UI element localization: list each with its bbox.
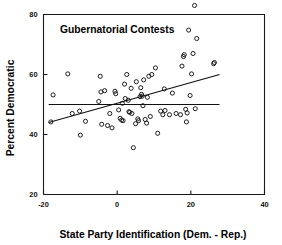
- x-tick-label: 20: [187, 200, 195, 209]
- data-point: [178, 113, 182, 117]
- y-axis-ticks: 20406080: [29, 10, 47, 199]
- data-point: [131, 146, 135, 150]
- x-tick-label: 0: [115, 200, 119, 209]
- data-point: [195, 36, 199, 40]
- data-point: [170, 91, 174, 95]
- data-point: [122, 82, 126, 86]
- x-axis-label: State Party Identification (Dem. - Rep.): [59, 229, 246, 240]
- data-point: [139, 86, 143, 90]
- data-point: [148, 114, 152, 118]
- data-point: [125, 72, 129, 76]
- x-axis-ticks: -2002040: [38, 191, 268, 209]
- data-point: [83, 119, 87, 123]
- data-point: [191, 51, 195, 55]
- data-point: [98, 74, 102, 78]
- data-point: [187, 28, 191, 32]
- data-point: [153, 66, 157, 70]
- data-point: [161, 113, 165, 117]
- y-tick-label: 20: [29, 190, 37, 199]
- data-point: [142, 78, 146, 82]
- data-point: [134, 80, 138, 84]
- y-axis-label: Percent Democratic: [5, 59, 16, 156]
- data-point: [110, 126, 114, 130]
- data-point: [185, 111, 189, 115]
- data-point: [145, 121, 149, 125]
- x-tick-label: -20: [38, 200, 49, 209]
- y-tick-label: 80: [29, 10, 37, 19]
- data-point: [117, 108, 121, 112]
- data-point: [156, 131, 160, 135]
- data-point: [108, 111, 112, 115]
- x-tick-label: 40: [260, 200, 268, 209]
- data-point: [192, 3, 196, 7]
- data-point: [51, 93, 55, 97]
- data-point: [174, 111, 178, 115]
- data-point: [66, 72, 70, 76]
- data-point: [184, 120, 188, 124]
- data-point: [129, 86, 133, 90]
- data-point: [193, 107, 197, 111]
- data-point: [188, 93, 192, 97]
- data-point: [103, 89, 107, 93]
- y-tick-label: 60: [29, 70, 37, 79]
- data-point: [78, 109, 82, 113]
- data-point: [145, 95, 149, 99]
- data-point: [100, 122, 104, 126]
- plot-title: Gubernatorial Contests: [60, 24, 175, 35]
- data-point: [167, 113, 171, 117]
- chart-canvas: 20406080 -2002040 Gubernatorial Contests…: [0, 0, 282, 245]
- data-point: [78, 133, 82, 137]
- y-tick-label: 40: [29, 130, 37, 139]
- data-point: [190, 72, 194, 76]
- data-point: [97, 99, 101, 103]
- data-point: [106, 123, 110, 127]
- scatter-plot-figure: 20406080 -2002040 Gubernatorial Contests…: [0, 0, 282, 245]
- data-point: [180, 64, 184, 68]
- data-point: [163, 108, 167, 112]
